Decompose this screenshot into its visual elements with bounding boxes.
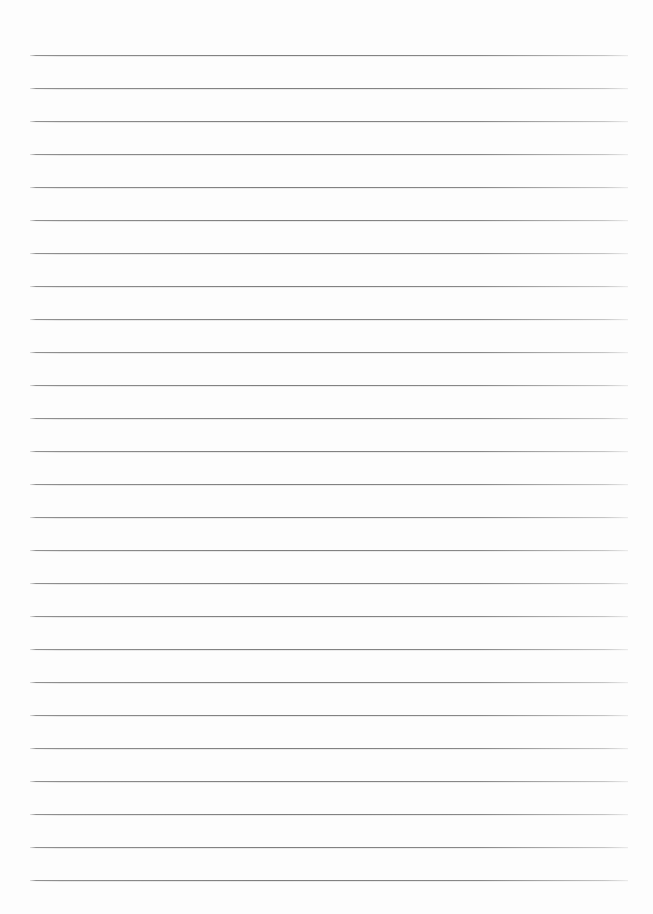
rule-line — [30, 781, 628, 782]
rule-line — [30, 154, 628, 155]
rule-line — [30, 484, 628, 485]
rule-line — [30, 352, 628, 353]
rule-line — [30, 88, 628, 89]
rule-line — [30, 121, 628, 122]
ruling-area — [0, 0, 653, 914]
rule-line — [30, 649, 628, 650]
rule-line — [30, 253, 628, 254]
rule-line — [30, 517, 628, 518]
rule-line — [30, 880, 628, 881]
rule-line — [30, 319, 628, 320]
rule-line — [30, 715, 628, 716]
rule-line — [30, 847, 628, 848]
rule-line — [30, 55, 628, 56]
rule-line — [30, 616, 628, 617]
rule-line — [30, 682, 628, 683]
rule-line — [30, 385, 628, 386]
rule-line — [30, 814, 628, 815]
rule-line — [30, 748, 628, 749]
rule-line — [30, 418, 628, 419]
rule-line — [30, 187, 628, 188]
lined-paper-page — [0, 0, 653, 914]
rule-line — [30, 220, 628, 221]
rule-line — [30, 286, 628, 287]
rule-line — [30, 550, 628, 551]
rule-line — [30, 583, 628, 584]
rule-line — [30, 451, 628, 452]
